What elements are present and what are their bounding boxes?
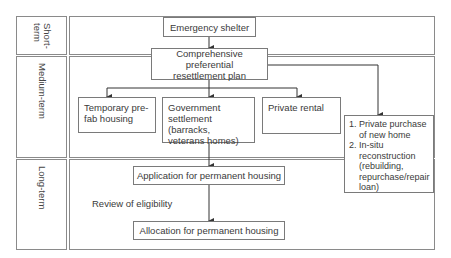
temporary-prefab-housing-box: Temporary pre- fab housing bbox=[78, 97, 156, 133]
private-rental-box: Private rental bbox=[262, 97, 341, 134]
government-settlement-box: Government settlement (barracks, veteran… bbox=[162, 97, 255, 143]
option-2-line5: loan) bbox=[349, 182, 430, 193]
option-2-line4: repurchase/repair bbox=[349, 172, 430, 183]
government-settlement-line3: veterans homes) bbox=[168, 135, 249, 146]
temporary-prefab-line2: fab housing bbox=[84, 113, 150, 124]
temporary-prefab-line1: Temporary pre- bbox=[84, 102, 150, 113]
allocation-permanent-housing-box: Allocation for permanent housing bbox=[133, 221, 285, 240]
option-2-line1: 2. In-situ bbox=[349, 140, 430, 151]
option-1-line2: of new home bbox=[349, 130, 430, 141]
private-rental-text: Private rental bbox=[268, 102, 335, 113]
allocation-text: Allocation for permanent housing bbox=[140, 225, 279, 236]
option-2-line3: (rebuilding, bbox=[349, 161, 430, 172]
application-permanent-housing-box: Application for permanent housing bbox=[133, 166, 285, 185]
review-of-eligibility-label: Review of eligibility bbox=[92, 198, 172, 209]
private-purchase-reconstruction-box: 1. Private purchase of new home 2. In-si… bbox=[344, 115, 434, 193]
plan-text-line1: Comprehensive preferential bbox=[152, 48, 267, 70]
application-text: Application for permanent housing bbox=[137, 170, 281, 181]
option-1-line1: 1. Private purchase bbox=[349, 119, 430, 130]
emergency-shelter-box: Emergency shelter bbox=[163, 17, 256, 37]
option-2-line2: reconstruction bbox=[349, 151, 430, 162]
government-settlement-line2: settlement (barracks, bbox=[168, 113, 249, 135]
government-settlement-line1: Government bbox=[168, 102, 249, 113]
plan-text-line2: resettlement plan bbox=[173, 70, 246, 81]
comprehensive-resettlement-plan-box: Comprehensive preferential resettlement … bbox=[151, 48, 268, 80]
emergency-shelter-text: Emergency shelter bbox=[170, 22, 249, 33]
